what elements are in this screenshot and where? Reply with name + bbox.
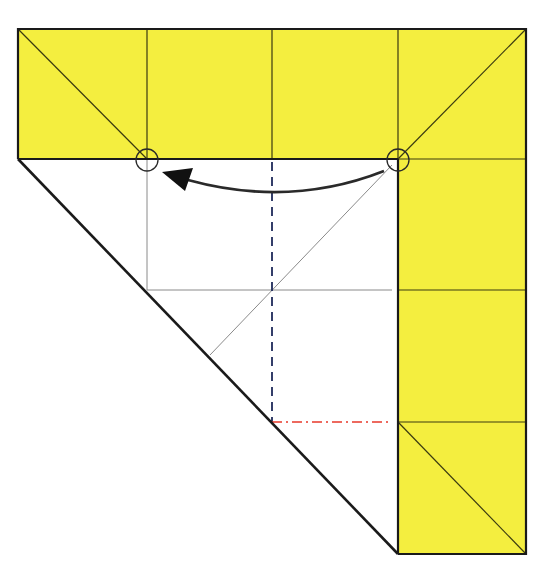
origami-diagram: Origami folding step Fold the marked cor… [0,0,543,577]
yellow-right-strip [398,159,526,554]
